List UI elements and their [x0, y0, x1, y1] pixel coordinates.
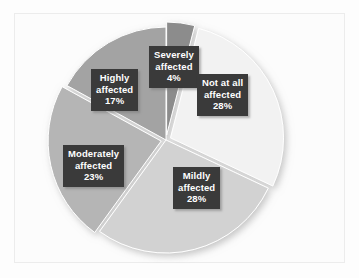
pie-label-highly-affected: Highly affected 17% — [91, 69, 138, 111]
pie-label-moderately-affected: Moderately affected 23% — [63, 145, 124, 187]
pie-label-text-line1: Highly — [96, 72, 133, 84]
pie-label-text-line1: Severely — [154, 49, 194, 61]
pie-label-percent: 17% — [96, 95, 133, 107]
pie-label-text-line1: Not at all — [202, 77, 243, 89]
pie-label-text-line1: Mildly — [178, 170, 215, 182]
pie-label-text-line2: affected — [202, 89, 243, 101]
pie-label-severely-affected: Severely affected 4% — [149, 46, 199, 88]
pie-label-percent: 23% — [68, 171, 119, 183]
pie-label-mildly-affected: Mildly affected 28% — [173, 167, 220, 209]
chart-frame: Severely affected 4% Not at all affected… — [14, 13, 345, 263]
pie-chart-plot-area: Severely affected 4% Not at all affected… — [15, 14, 346, 264]
pie-label-text-line2: affected — [68, 160, 119, 172]
screenshot-root: Severely affected 4% Not at all affected… — [0, 0, 359, 278]
pie-label-text-line2: affected — [96, 84, 133, 96]
pie-label-percent: 28% — [178, 193, 215, 205]
pie-label-percent: 4% — [154, 72, 194, 84]
pie-label-text-line1: Moderately — [68, 148, 119, 160]
pie-label-text-line2: affected — [178, 182, 215, 194]
pie-label-text-line2: affected — [154, 61, 194, 73]
pie-label-percent: 28% — [202, 100, 243, 112]
pie-label-not-at-all-affected: Not at all affected 28% — [197, 74, 248, 116]
